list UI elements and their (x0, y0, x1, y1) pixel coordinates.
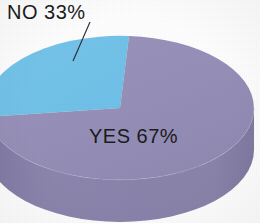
pie-chart-figure: NO 33% YES 67% (0, 0, 260, 223)
pie-label-no: NO 33% (7, 2, 86, 22)
pie-slice-no-top (0, 36, 129, 117)
pie-chart-graphic (0, 0, 260, 223)
pie-label-yes: YES 67% (89, 126, 178, 146)
